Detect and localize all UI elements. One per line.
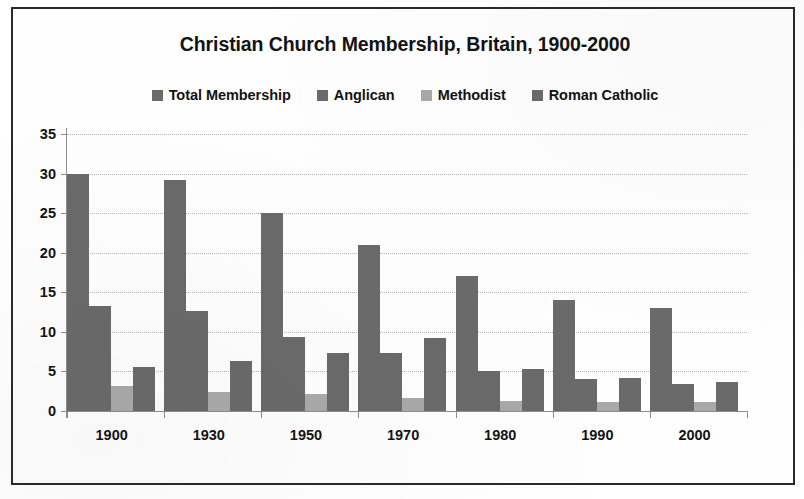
bar-anglican-1900[interactable]	[89, 306, 111, 411]
bar-anglican-1990[interactable]	[575, 379, 597, 411]
bar-methodist-2000[interactable]	[694, 402, 716, 411]
plot-area: 05101520253035	[67, 134, 747, 411]
legend-label: Total Membership	[169, 87, 291, 103]
legend-swatch-roman-catholic-icon	[532, 90, 543, 101]
bar-roman-catholic-2000[interactable]	[716, 382, 738, 411]
y-tick-label-20: 20	[40, 245, 56, 261]
scanned-page: Christian Church Membership, Britain, 19…	[0, 0, 804, 499]
x-tick-mark-end	[747, 411, 748, 418]
bar-anglican-1950[interactable]	[283, 337, 305, 411]
y-tick-label-35: 35	[40, 126, 56, 142]
legend-label: Anglican	[334, 87, 395, 103]
bar-group-1950	[261, 134, 358, 411]
legend-item-total-membership[interactable]: Total Membership	[152, 87, 291, 103]
bar-group-1900	[67, 134, 164, 411]
x-tick-mark-1990	[553, 411, 554, 418]
bar-methodist-1970[interactable]	[402, 398, 424, 411]
legend-swatch-anglican-icon	[317, 90, 328, 101]
bar-roman-catholic-1950[interactable]	[327, 353, 349, 411]
chart-legend: Total MembershipAnglicanMethodistRoman C…	[13, 87, 797, 103]
bar-roman-catholic-1980[interactable]	[522, 369, 544, 411]
x-axis-line	[67, 411, 747, 412]
bar-anglican-1970[interactable]	[380, 353, 402, 411]
x-tick-mark-2000	[650, 411, 651, 418]
bar-methodist-1900[interactable]	[111, 386, 133, 411]
bar-total-membership-1900[interactable]	[67, 174, 89, 411]
legend-swatch-methodist-icon	[421, 90, 432, 101]
bar-total-membership-1990[interactable]	[553, 300, 575, 411]
x-tick-label-1930: 1930	[193, 427, 225, 443]
y-tick-label-15: 15	[40, 284, 56, 300]
y-tick-label-30: 30	[40, 166, 56, 182]
legend-item-roman-catholic[interactable]: Roman Catholic	[532, 87, 659, 103]
x-tick-label-1970: 1970	[387, 427, 419, 443]
bar-group-2000	[650, 134, 747, 411]
bar-group-1990	[553, 134, 650, 411]
bar-total-membership-1950[interactable]	[261, 213, 283, 411]
bar-roman-catholic-1990[interactable]	[619, 378, 641, 411]
x-tick-mark-1930	[164, 411, 165, 418]
x-tick-mark-1970	[358, 411, 359, 418]
legend-label: Roman Catholic	[549, 87, 659, 103]
bar-methodist-1950[interactable]	[305, 394, 327, 411]
bar-anglican-1930[interactable]	[186, 311, 208, 412]
x-tick-label-1900: 1900	[96, 427, 128, 443]
legend-item-methodist[interactable]: Methodist	[421, 87, 506, 103]
bar-roman-catholic-1930[interactable]	[230, 361, 252, 411]
bar-anglican-2000[interactable]	[672, 384, 694, 411]
y-tick-label-25: 25	[40, 205, 56, 221]
y-tick-label-0: 0	[48, 403, 56, 419]
legend-item-anglican[interactable]: Anglican	[317, 87, 395, 103]
y-tick-label-5: 5	[48, 363, 56, 379]
bar-methodist-1930[interactable]	[208, 392, 230, 411]
legend-swatch-total-membership-icon	[152, 90, 163, 101]
x-tick-mark-1900	[67, 411, 68, 418]
bar-total-membership-2000[interactable]	[650, 308, 672, 411]
bar-methodist-1990[interactable]	[597, 402, 619, 411]
bar-roman-catholic-1900[interactable]	[133, 367, 155, 411]
x-tick-label-1980: 1980	[484, 427, 516, 443]
bar-total-membership-1930[interactable]	[164, 180, 186, 411]
bar-methodist-1980[interactable]	[500, 401, 522, 411]
bar-group-1930	[164, 134, 261, 411]
x-tick-mark-1950	[261, 411, 262, 418]
bar-roman-catholic-1970[interactable]	[424, 338, 446, 411]
y-tick-label-10: 10	[40, 324, 56, 340]
bar-groups	[67, 134, 747, 411]
bar-group-1980	[456, 134, 553, 411]
x-axis: 1900193019501970198019902000	[67, 411, 747, 457]
bar-anglican-1980[interactable]	[478, 371, 500, 411]
x-tick-mark-1980	[456, 411, 457, 418]
x-tick-label-1950: 1950	[290, 427, 322, 443]
bar-total-membership-1970[interactable]	[358, 245, 380, 411]
chart-frame: Christian Church Membership, Britain, 19…	[11, 7, 795, 485]
page-title: Christian Church Membership, Britain, 19…	[13, 33, 797, 56]
legend-label: Methodist	[438, 87, 506, 103]
bar-group-1970	[358, 134, 455, 411]
bar-total-membership-1980[interactable]	[456, 276, 478, 411]
x-tick-label-2000: 2000	[678, 427, 710, 443]
x-tick-label-1990: 1990	[581, 427, 613, 443]
